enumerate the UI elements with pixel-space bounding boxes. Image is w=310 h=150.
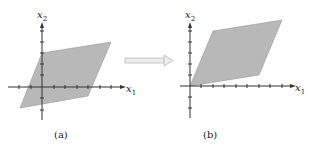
panel-a: x1 x2 (a) — [8, 9, 136, 140]
parallelogram-a — [20, 42, 111, 108]
parallelogram-b — [190, 20, 282, 86]
figure: x1 x2 (a) — [0, 0, 310, 150]
x2-label-b: x2 — [185, 9, 195, 23]
x2-label-a: x2 — [37, 9, 47, 23]
panel-b: x1 x2 (b) — [180, 9, 305, 140]
caption-a: (a) — [54, 129, 68, 140]
caption-b: (b) — [203, 129, 217, 140]
x1-label-a: x1 — [126, 83, 136, 97]
transform-arrow — [125, 55, 173, 66]
x1-label-b: x1 — [295, 82, 305, 96]
